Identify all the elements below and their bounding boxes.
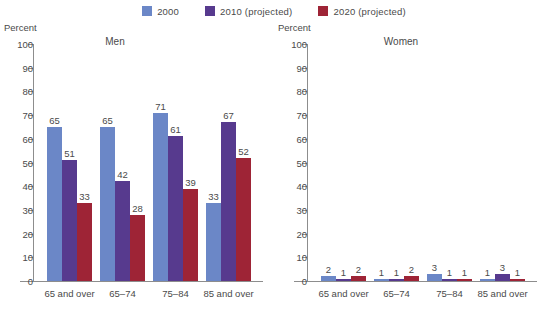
bar-group: 212 (321, 44, 366, 281)
bar (457, 279, 472, 281)
bar-group: 336752 (206, 44, 251, 281)
bar (115, 181, 130, 281)
bar-value-label: 67 (223, 110, 234, 121)
bar-slot: 51 (62, 44, 77, 281)
y-axis-ticks: 1009080706050403020100 (274, 22, 307, 312)
legend-label: 2000 (157, 6, 179, 17)
chart-panel-men: Percent Men 1009080706050403020100 65513… (0, 22, 274, 312)
bar-slot: 61 (168, 44, 183, 281)
bar-group: 655133 (47, 44, 92, 281)
bar (221, 122, 236, 281)
x-axis-category-label: 75–84 (162, 288, 188, 299)
bar-group: 311 (427, 44, 472, 281)
bar (62, 160, 77, 281)
bar (321, 276, 336, 281)
bar-slot: 42 (115, 44, 130, 281)
bar-slot: 3 (427, 44, 442, 281)
y-axis-ticks: 1009080706050403020100 (0, 22, 33, 312)
bar-value-label: 39 (185, 177, 196, 188)
chart-legend: 20002010 (projected)2020 (projected) (0, 2, 548, 20)
y-axis-tick-label: 80 (9, 86, 33, 97)
bar-slot: 2 (351, 44, 366, 281)
bar-group: 131 (480, 44, 525, 281)
bar (47, 127, 62, 281)
bar-value-label: 33 (208, 191, 219, 202)
y-axis-tick-label: 90 (9, 62, 33, 73)
bar-value-label: 2 (356, 264, 361, 275)
y-axis-tick-label: 0 (283, 276, 307, 287)
y-axis-tick-label: 40 (9, 181, 33, 192)
bar-value-label: 71 (155, 101, 166, 112)
bar-slot: 52 (236, 44, 251, 281)
y-axis-tick-label: 20 (9, 228, 33, 239)
bar-slot: 1 (374, 44, 389, 281)
x-axis-category-label: 65 and over (318, 288, 368, 299)
bar (206, 203, 221, 281)
bar-slot: 1 (336, 44, 351, 281)
bar-value-label: 1 (462, 267, 467, 278)
bar-value-label: 65 (102, 115, 113, 126)
bar-group: 654228 (100, 44, 145, 281)
bar (351, 276, 366, 281)
bar-slot: 1 (457, 44, 472, 281)
bar (374, 279, 389, 281)
bar-value-label: 1 (515, 267, 520, 278)
y-axis-tick-label: 0 (9, 276, 33, 287)
bar-value-label: 3 (432, 262, 437, 273)
bar-slot: 71 (153, 44, 168, 281)
bar-slot: 1 (480, 44, 495, 281)
bar (510, 279, 525, 281)
x-axis-category-label: 65–74 (383, 288, 409, 299)
bar (77, 203, 92, 281)
y-axis-tick-label: 100 (283, 39, 307, 50)
bar (389, 279, 404, 281)
bar (404, 276, 419, 281)
x-axis-category-label: 65 and over (44, 288, 94, 299)
bar (130, 215, 145, 281)
bar (236, 158, 251, 281)
y-axis-tick-label: 70 (9, 110, 33, 121)
bar-slot: 33 (206, 44, 221, 281)
bar (427, 274, 442, 281)
bar-slot: 65 (100, 44, 115, 281)
bar-slot: 67 (221, 44, 236, 281)
x-axis-line (20, 281, 263, 282)
bar-group: 112 (374, 44, 419, 281)
bar-value-label: 2 (326, 264, 331, 275)
x-axis-category-label: 85 and over (477, 288, 527, 299)
bar (442, 279, 457, 281)
x-axis-line (294, 281, 537, 282)
bar-value-label: 1 (341, 267, 346, 278)
bar (153, 113, 168, 281)
bar-slot: 28 (130, 44, 145, 281)
y-axis-tick-label: 60 (9, 133, 33, 144)
x-axis-category-label: 65–74 (109, 288, 135, 299)
bar-value-label: 3 (500, 262, 505, 273)
y-axis-tick-label: 40 (283, 181, 307, 192)
bar-value-label: 33 (79, 191, 90, 202)
bar (480, 279, 495, 281)
x-axis-category-label: 75–84 (436, 288, 462, 299)
y-axis-tick-label: 10 (283, 252, 307, 263)
bar (168, 136, 183, 281)
bar (100, 127, 115, 281)
bar-group: 716139 (153, 44, 198, 281)
y-axis-tick-label: 70 (283, 110, 307, 121)
y-axis-tick-label: 90 (283, 62, 307, 73)
plot-area: 655133654228716139336752 (33, 44, 261, 281)
y-axis-tick-label: 10 (9, 252, 33, 263)
y-axis-tick-label: 30 (283, 204, 307, 215)
bar (495, 274, 510, 281)
y-axis-tick-label: 20 (283, 228, 307, 239)
legend-entry: 2020 (projected) (318, 6, 405, 17)
bar-slot: 2 (321, 44, 336, 281)
y-axis-tick-label: 60 (283, 133, 307, 144)
legend-swatch-2000 (142, 6, 152, 16)
bar-value-label: 42 (117, 169, 128, 180)
legend-label: 2010 (projected) (220, 6, 292, 17)
bar-slot: 1 (389, 44, 404, 281)
bar-value-label: 65 (49, 115, 60, 126)
legend-swatch-2010 (205, 6, 215, 16)
bar (183, 189, 198, 281)
bar-value-label: 2 (409, 264, 414, 275)
